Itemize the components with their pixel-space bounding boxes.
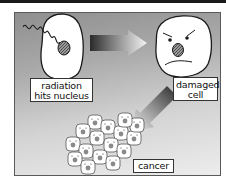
label-line: hits nucleus (33, 91, 90, 101)
cancer-cell (93, 150, 107, 164)
label-radiation-hits-nucleus: radiation hits nucleus (30, 78, 93, 102)
cancer-cell (106, 156, 120, 170)
cancer-cell (68, 152, 82, 166)
label-damaged-cell: damaged cell (173, 77, 218, 101)
cancer-cell (66, 137, 80, 151)
label-cancer: cancer (133, 159, 174, 173)
nucleus-icon (58, 41, 70, 55)
cancer-cell (90, 131, 104, 145)
cancer-cell (114, 126, 128, 140)
cancer-cell (118, 113, 132, 127)
arrow-right-icon (90, 30, 147, 56)
cancer-cell (81, 160, 95, 174)
label-line: cancer (136, 161, 171, 171)
cancer-cell (127, 131, 141, 145)
label-line: cell (176, 90, 215, 100)
eye-icon (168, 38, 172, 42)
damaged-cell (156, 16, 212, 77)
cancer-cell (76, 124, 90, 138)
cancer-cell (117, 144, 131, 158)
cancer-cell (104, 138, 118, 152)
nucleus-icon (173, 44, 184, 57)
eye-icon (185, 36, 189, 40)
